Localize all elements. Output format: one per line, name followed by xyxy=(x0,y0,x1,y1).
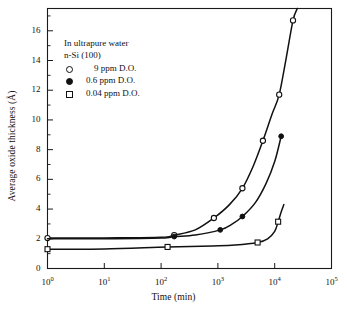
y-tick-label: 10 xyxy=(14,114,41,124)
legend-header-text: n-Si (100) xyxy=(64,49,101,61)
legend-header-text: In ultrapure water xyxy=(64,37,128,49)
marker-open-circle xyxy=(240,186,245,191)
x-axis-title: Time (min) xyxy=(0,292,347,302)
y-tick-label: 16 xyxy=(14,25,41,35)
x-tick-label: 100 xyxy=(33,275,63,287)
oxide-growth-chart: Average oxide thickness (Å) Time (min) 0… xyxy=(0,0,347,314)
y-tick-label: 14 xyxy=(14,55,41,65)
y-tick-label: 4 xyxy=(14,203,41,213)
legend-entry-label: 9 ppm D.O. xyxy=(94,62,137,74)
x-tick-label: 104 xyxy=(260,275,290,287)
y-tick-label: 0 xyxy=(14,263,41,273)
marker-open-square xyxy=(165,244,170,249)
legend-open-circle-icon xyxy=(66,66,73,73)
y-tick-label: 2 xyxy=(14,233,41,243)
marker-filled-circle xyxy=(279,134,284,139)
x-tick-label: 103 xyxy=(203,275,233,287)
marker-open-circle xyxy=(277,92,282,97)
marker-open-square xyxy=(255,240,260,245)
marker-filled-circle xyxy=(172,234,177,239)
marker-open-circle xyxy=(260,138,265,143)
legend-open-square-icon xyxy=(66,91,73,98)
legend-entry-label: 0.04 ppm D.O. xyxy=(86,87,140,99)
plot-canvas xyxy=(0,0,347,314)
x-tick-label: 102 xyxy=(146,275,176,287)
series-line xyxy=(48,136,282,239)
legend-entry-label: 0.6 ppm D.O. xyxy=(86,74,135,86)
y-tick-label: 12 xyxy=(14,84,41,94)
y-tick-marks xyxy=(48,16,54,269)
marker-filled-circle xyxy=(218,227,223,232)
y-tick-label: 8 xyxy=(14,144,41,154)
marker-open-circle xyxy=(290,18,295,23)
y-tick-label: 6 xyxy=(14,173,41,183)
x-tick-label: 101 xyxy=(89,275,119,287)
series-1 xyxy=(48,134,284,239)
marker-filled-circle xyxy=(240,214,245,219)
x-tick-marks xyxy=(48,263,332,269)
marker-open-circle xyxy=(211,215,216,220)
marker-open-square xyxy=(45,247,50,252)
marker-open-square xyxy=(276,219,281,224)
x-tick-label: 105 xyxy=(317,275,347,287)
